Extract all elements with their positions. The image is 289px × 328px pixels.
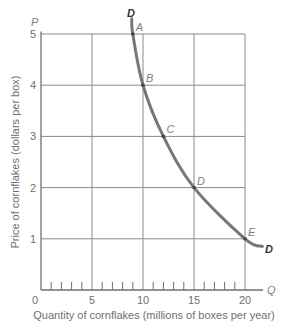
curve-point-marker bbox=[243, 237, 247, 241]
curve-label-start: D bbox=[127, 7, 135, 19]
demand-curve bbox=[132, 19, 263, 247]
curve-point-marker bbox=[141, 83, 145, 87]
point-label-a: A bbox=[135, 21, 143, 33]
x-axis-symbol: Q bbox=[267, 284, 276, 296]
curve-label-end: D bbox=[265, 243, 273, 255]
y-tick-label: 3 bbox=[30, 130, 36, 142]
axes bbox=[41, 31, 263, 290]
curve-point-marker bbox=[192, 186, 196, 190]
x-tick-label: 10 bbox=[137, 294, 149, 306]
y-tick-label: 2 bbox=[30, 182, 36, 194]
curve-point-marker bbox=[131, 32, 135, 36]
curve-point-marker bbox=[162, 135, 166, 139]
demand-curve-chart: 0510152012345 ABCDE P Q D D Quantity of … bbox=[0, 0, 289, 328]
x-tick-label: 20 bbox=[239, 294, 251, 306]
point-label-c: C bbox=[166, 123, 174, 135]
y-tick-label: 5 bbox=[30, 28, 36, 40]
x-axis-title: Quantity of cornflakes (millions of boxe… bbox=[33, 309, 275, 321]
x-tick-label: 5 bbox=[89, 294, 95, 306]
grid-lines bbox=[41, 34, 245, 290]
point-label-b: B bbox=[146, 72, 153, 84]
point-label-d: D bbox=[197, 175, 205, 187]
x-tick-label: 15 bbox=[188, 294, 200, 306]
point-label-e: E bbox=[248, 226, 256, 238]
y-tick-label: 1 bbox=[30, 233, 36, 245]
y-tick-label: 4 bbox=[30, 79, 36, 91]
y-axis-title: Price of cornflakes (dollars per box) bbox=[9, 75, 21, 248]
y-axis-symbol: P bbox=[31, 16, 39, 28]
x-tick-label: 0 bbox=[32, 294, 38, 306]
